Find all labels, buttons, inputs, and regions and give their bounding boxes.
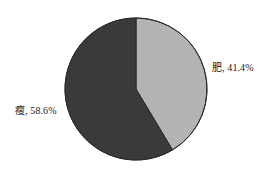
pie-label-fat: 肥, 41.4% bbox=[212, 62, 254, 73]
pie-chart-figure: 肥, 41.4% 瘦, 58.6% bbox=[0, 0, 272, 172]
pie-chart-svg bbox=[0, 0, 272, 172]
pie-slices bbox=[65, 18, 207, 160]
pie-label-thin: 瘦, 58.6% bbox=[15, 105, 57, 116]
